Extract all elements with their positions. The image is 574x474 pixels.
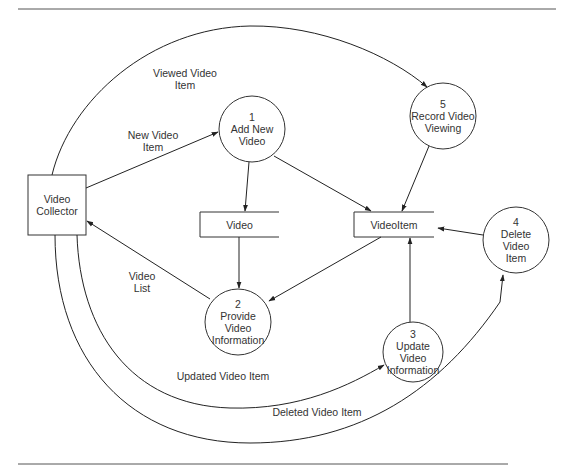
flow-label-viewed-video-item: Viewed Video Item	[145, 67, 225, 91]
video-store-label: Video	[200, 212, 279, 237]
video-collector-label: Video Collector	[28, 175, 86, 235]
process-4-label: 4 Delete Video Item	[483, 207, 549, 273]
flow-p5-to-videoitem	[402, 146, 429, 211]
flow-label-deleted-video-item: Deleted Video Item	[262, 406, 372, 418]
process-5-label: 5 Record Video Viewing	[408, 83, 478, 149]
flow-p4-to-videoitem	[438, 228, 483, 235]
process-1-label: 1 Add New Video	[219, 96, 285, 162]
flow-p1-to-video	[245, 162, 249, 211]
process-2-label: 2 Provide Video Information	[205, 289, 271, 355]
flow-label-new-video-item: New Video Item	[118, 129, 188, 153]
videoitem-store-label: VideoItem	[354, 212, 434, 237]
flow-label-video-list: Video List	[120, 270, 164, 294]
flow-p1-to-videoitem	[274, 156, 371, 211]
flow-label-updated-video-item: Updated Video Item	[168, 370, 278, 382]
process-3-label: 3 Update Video Information	[383, 322, 443, 382]
flow-videoitem-to-p2	[269, 237, 381, 301]
